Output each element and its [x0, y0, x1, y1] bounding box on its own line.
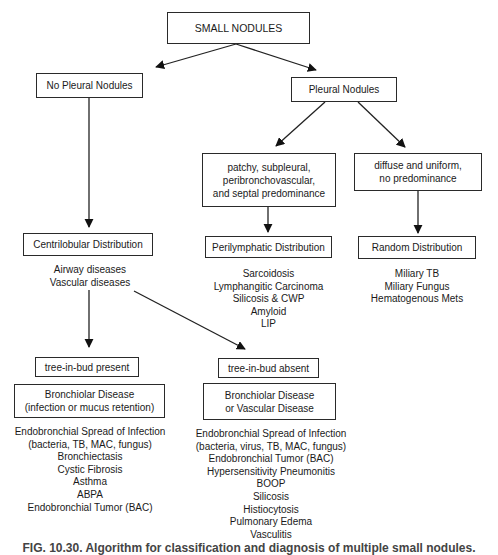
category-line: or Vascular Disease: [225, 402, 314, 415]
random-distribution-node: Random Distribution: [358, 236, 476, 259]
tree-in-bud-present-node: tree-in-bud present: [35, 357, 139, 377]
list-item: Cystic Fibrosis: [2, 464, 178, 477]
list-item: Silicosis & CWP: [200, 293, 337, 306]
category-line: (infection or mucus retention): [25, 401, 155, 414]
bronchiolar-disease-node: Bronchiolar Disease (infection or mucus …: [14, 384, 165, 418]
tree-in-bud-absent-node: tree-in-bud absent: [218, 358, 319, 378]
list-item: Pulmonary Edema: [186, 516, 356, 529]
random-disease-list: Miliary TB Miliary Fungus Hematogenous M…: [352, 268, 482, 306]
centrilobular-disease-list: Airway diseases Vascular diseases: [20, 264, 160, 289]
pattern-line: diffuse and uniform,: [374, 159, 462, 172]
list-item: Vasculitis: [186, 529, 356, 542]
pattern-line: peribronchovascular,: [223, 174, 315, 187]
list-item: Endobronchial Spread of Infection: [186, 428, 356, 441]
list-item: Miliary TB: [352, 268, 482, 281]
pattern-line: patchy, subpleural,: [227, 161, 310, 174]
list-item: (bacteria, TB, MAC, fungus): [2, 439, 178, 452]
list-item: Amyloid: [200, 306, 337, 319]
list-item: Lymphangitic Carcinoma: [200, 281, 337, 294]
list-item: Histiocytosis: [186, 504, 356, 517]
list-item: ABPA: [2, 489, 178, 502]
list-item: LIP: [200, 318, 337, 331]
list-item: (bacteria, virus, TB, MAC, fungus): [186, 441, 356, 454]
patchy-pattern-node: patchy, subpleural, peribronchovascular,…: [202, 153, 336, 207]
root-node: SMALL NODULES: [167, 12, 310, 44]
pattern-line: no predominance: [379, 172, 456, 185]
tree-in-bud-absent-list: Endobronchial Spread of Infection (bacte…: [186, 428, 356, 541]
list-item: Miliary Fungus: [352, 281, 482, 294]
tree-in-bud-present-list: Endobronchial Spread of Infection (bacte…: [2, 426, 178, 514]
list-item: BOOP: [186, 478, 356, 491]
list-item: Asthma: [2, 476, 178, 489]
list-item: Bronchiectasis: [2, 451, 178, 464]
perilymphatic-disease-list: Sarcoidosis Lymphangitic Carcinoma Silic…: [200, 268, 337, 331]
diffuse-pattern-node: diffuse and uniform, no predominance: [354, 153, 482, 191]
list-item: Endobronchial Tumor (BAC): [186, 453, 356, 466]
pattern-line: and septal predominance: [213, 187, 325, 200]
list-item: Vascular diseases: [20, 277, 160, 290]
list-item: Airway diseases: [20, 264, 160, 277]
bronchiolar-or-vascular-disease-node: Bronchiolar Disease or Vascular Disease: [203, 383, 336, 420]
list-item: Silicosis: [186, 491, 356, 504]
list-item: Hypersensitivity Pneumonitis: [186, 466, 356, 479]
centrilobular-distribution-node: Centrilobular Distribution: [23, 233, 153, 256]
pleural-nodules-node: Pleural Nodules: [291, 77, 397, 102]
no-pleural-nodules-node: No Pleural Nodules: [36, 73, 143, 98]
list-item: Hematogenous Mets: [352, 293, 482, 306]
list-item: Endobronchial Spread of Infection: [2, 426, 178, 439]
perilymphatic-distribution-node: Perilymphatic Distribution: [205, 236, 332, 258]
category-line: Bronchiolar Disease: [225, 389, 315, 402]
category-line: Bronchiolar Disease: [45, 388, 135, 401]
list-item: Endobronchial Tumor (BAC): [2, 502, 178, 515]
figure-caption: FIG. 10.30. Algorithm for classification…: [0, 541, 498, 555]
list-item: Sarcoidosis: [200, 268, 337, 281]
